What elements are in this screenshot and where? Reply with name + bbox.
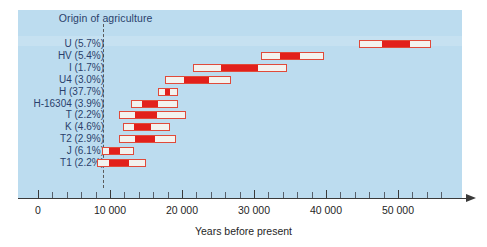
x-axis-minor-tick xyxy=(412,192,413,198)
x-axis-major-tick xyxy=(326,190,327,198)
x-axis-tick-label: 10 000 xyxy=(94,204,126,216)
category-label: U (5.7%) xyxy=(65,38,104,49)
x-axis-minor-tick xyxy=(139,192,140,198)
x-axis-minor-tick xyxy=(283,192,284,198)
range-bar xyxy=(261,52,324,60)
category-label: HV (5.4%) xyxy=(58,50,104,61)
category-label: T2 (2.9%) xyxy=(60,133,104,144)
range-bar xyxy=(97,159,146,167)
category-labels: U (5.7%)HV (5.4%)I (1.7%)U4 (3.0%)H (37.… xyxy=(22,0,104,188)
range-bar xyxy=(193,64,287,72)
range-bar xyxy=(119,135,177,143)
range-bar xyxy=(131,100,179,108)
x-axis-tick-label: 20 000 xyxy=(166,204,198,216)
x-axis-minor-tick xyxy=(96,192,97,198)
x-axis-tick-label: 50 000 xyxy=(382,204,414,216)
x-axis-minor-tick xyxy=(427,192,428,198)
category-label: J (6.1%) xyxy=(67,145,104,156)
x-axis-minor-tick xyxy=(340,192,341,198)
range-bar-core xyxy=(184,77,209,83)
range-bar-core xyxy=(142,101,159,107)
range-bar xyxy=(158,88,178,96)
x-axis-tick-label: 30 000 xyxy=(238,204,270,216)
range-bar-core xyxy=(382,41,409,47)
range-bar xyxy=(119,111,187,119)
x-axis-minor-tick xyxy=(268,192,269,198)
x-axis-minor-tick xyxy=(196,192,197,198)
x-axis-minor-tick xyxy=(240,192,241,198)
range-bar-core xyxy=(109,160,129,166)
category-label: I (1.7%) xyxy=(69,62,104,73)
x-axis-minor-tick xyxy=(297,192,298,198)
category-label: U4 (3.0%) xyxy=(59,74,104,85)
x-axis-arrow xyxy=(466,194,476,202)
x-axis-major-tick xyxy=(254,190,255,198)
x-axis-minor-tick xyxy=(81,192,82,198)
x-axis-minor-tick xyxy=(211,192,212,198)
x-axis-minor-tick xyxy=(153,192,154,198)
range-bar xyxy=(102,147,134,155)
x-axis-major-tick xyxy=(182,190,183,198)
x-axis-minor-tick xyxy=(369,192,370,198)
range-bar-core xyxy=(135,112,157,118)
range-bar-core xyxy=(221,65,258,71)
x-axis-minor-tick xyxy=(312,192,313,198)
x-axis-minor-tick xyxy=(355,192,356,198)
chart-figure: Origin of agriculture U (5.7%)HV (5.4%)I… xyxy=(0,0,487,247)
x-axis-major-tick xyxy=(398,190,399,198)
category-label: T (2.2%) xyxy=(66,109,104,120)
range-bar xyxy=(359,40,431,48)
range-bar-core xyxy=(165,89,170,95)
range-bar xyxy=(165,76,231,84)
x-axis-minor-tick xyxy=(225,192,226,198)
range-bar-core xyxy=(134,124,151,130)
x-axis-major-tick xyxy=(38,190,39,198)
x-axis-tick-label: 0 xyxy=(35,204,41,216)
x-axis-minor-tick xyxy=(168,192,169,198)
x-axis-title: Years before present xyxy=(0,225,487,237)
category-label: H (37.7%) xyxy=(59,86,104,97)
x-axis-minor-tick xyxy=(384,192,385,198)
x-axis-minor-tick xyxy=(67,192,68,198)
range-bar xyxy=(123,123,170,131)
x-axis-major-tick xyxy=(110,190,111,198)
x-axis-line xyxy=(18,198,468,199)
x-axis-minor-tick xyxy=(124,192,125,198)
x-axis-minor-tick xyxy=(52,192,53,198)
range-bar-core xyxy=(109,148,121,154)
range-bar-core xyxy=(135,136,155,142)
x-axis-tick-label: 40 000 xyxy=(310,204,342,216)
category-label: K (4.6%) xyxy=(65,121,104,132)
range-bar-core xyxy=(280,53,300,59)
x-axis-minor-tick xyxy=(441,192,442,198)
category-label: H-16304 (3.9%) xyxy=(33,98,104,109)
